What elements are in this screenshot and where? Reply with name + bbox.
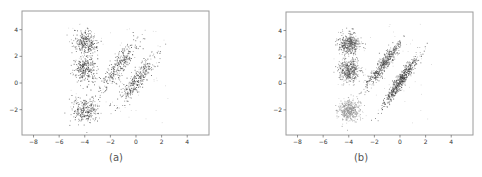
scatter-panel-a: −8−6−4−2024−2024 (a) xyxy=(0,0,241,177)
y-tick-label: 2 xyxy=(14,52,18,59)
x-tick-label: −8 xyxy=(293,138,302,145)
panel-caption-b: (b) xyxy=(341,152,381,163)
y-tick-label: 0 xyxy=(278,79,282,86)
scatter-points xyxy=(64,24,168,133)
y-tick-label: −2 xyxy=(273,106,282,113)
y-tick-label: 0 xyxy=(14,79,18,86)
axes: −8−6−4−2024−2024 xyxy=(273,27,453,145)
y-tick-label: 4 xyxy=(14,26,18,33)
x-tick-label: −4 xyxy=(344,138,353,145)
x-tick-label: −4 xyxy=(80,138,89,145)
y-tick-label: −2 xyxy=(9,106,18,113)
y-tick-label: 2 xyxy=(278,53,282,60)
axes: −8−6−4−2024−2024 xyxy=(9,26,189,145)
scatter-panel-b: −8−6−4−2024−2024 (b) xyxy=(241,0,482,177)
x-tick-label: −6 xyxy=(319,138,328,145)
x-tick-label: 0 xyxy=(398,138,402,145)
x-tick-label: 2 xyxy=(160,138,164,145)
x-tick-label: −2 xyxy=(106,138,115,145)
x-tick-label: −8 xyxy=(29,138,38,145)
x-tick-label: −6 xyxy=(55,138,64,145)
x-tick-label: 0 xyxy=(134,138,138,145)
scatter-plot-a: −8−6−4−2024−2024 xyxy=(0,0,241,150)
x-tick-label: 4 xyxy=(185,138,189,145)
scatter-points xyxy=(334,24,432,131)
x-tick-label: 4 xyxy=(449,138,453,145)
y-tick-label: 4 xyxy=(278,27,282,34)
plot-frame xyxy=(22,11,209,135)
panel-caption-a: (a) xyxy=(96,152,136,163)
scatter-plot-b: −8−6−4−2024−2024 xyxy=(241,0,482,150)
x-tick-label: 2 xyxy=(424,138,428,145)
x-tick-label: −2 xyxy=(370,138,379,145)
